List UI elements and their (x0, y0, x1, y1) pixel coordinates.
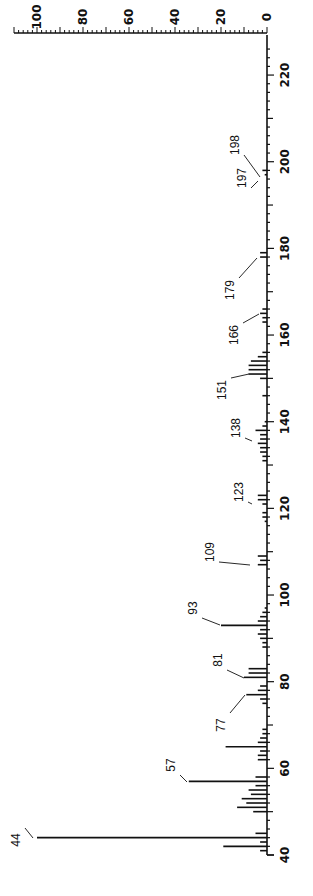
leader-line (180, 775, 187, 782)
intensity-tick-label: 0 (260, 13, 274, 21)
intensity-axis: 020406080100 (14, 4, 274, 33)
mz-tick-label: 200 (278, 149, 292, 174)
leader-line (251, 181, 258, 188)
intensity-tick-label: 100 (30, 4, 44, 29)
leader-line (248, 502, 252, 504)
peak-label: 57 (164, 758, 178, 772)
leader-line (239, 258, 257, 278)
peak-labels: 4457778193109123138151166179197198 (9, 135, 260, 847)
peak-label: 44 (9, 833, 23, 847)
peaks (37, 170, 267, 850)
peak-label: 109 (203, 542, 217, 562)
peak-label: 166 (227, 325, 241, 345)
intensity-tick-label: 40 (168, 9, 182, 26)
leader-line (219, 562, 250, 565)
mz-tick-label: 40 (278, 847, 292, 864)
mz-tick-label: 100 (278, 582, 292, 607)
peak-label: 77 (214, 718, 228, 732)
mz-tick-label: 60 (278, 760, 292, 777)
mz-tick-label: 120 (278, 496, 292, 521)
peak-label: 81 (211, 653, 225, 667)
intensity-tick-label: 80 (76, 9, 90, 26)
leader-line (231, 374, 249, 378)
leader-line (202, 618, 220, 625)
peak-label: 123 (232, 482, 246, 502)
peak-label: 138 (229, 418, 243, 438)
mz-tick-label: 140 (278, 409, 292, 434)
peak-label: 179 (223, 280, 237, 300)
intensity-tick-label: 20 (214, 9, 228, 26)
leader-line (227, 670, 244, 678)
peak-label: 198 (228, 135, 242, 155)
leader-line (230, 695, 245, 713)
mz-tick-label: 180 (278, 236, 292, 261)
mz-tick-label: 220 (278, 63, 292, 88)
leader-line (25, 828, 33, 838)
mass-spectrum-chart: 020406080100 406080100120140160180200220… (0, 0, 313, 896)
leader-line (243, 314, 259, 323)
mz-tick-label: 80 (278, 673, 292, 690)
intensity-tick-label: 60 (122, 9, 136, 26)
mz-axis: 406080100120140160180200220 (267, 35, 292, 863)
peak-label: 197 (235, 168, 249, 188)
leader-line (245, 438, 252, 441)
mz-tick-label: 160 (278, 323, 292, 348)
peak-label: 151 (215, 380, 229, 400)
peak-label: 93 (186, 601, 200, 615)
